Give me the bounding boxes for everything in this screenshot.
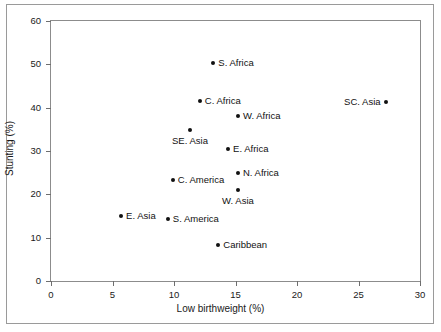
- data-point[interactable]: [188, 128, 192, 132]
- data-point-label: W. Asia: [222, 196, 254, 206]
- data-point[interactable]: [236, 114, 240, 118]
- data-point-label: SE. Asia: [172, 136, 208, 146]
- data-point-label: Caribbean: [223, 241, 267, 251]
- y-axis-tick: [46, 238, 51, 239]
- data-point[interactable]: [119, 214, 123, 218]
- x-axis-tick-label: 15: [230, 290, 241, 300]
- x-axis-tick-label: 0: [48, 290, 53, 300]
- data-point-label: W. Africa: [243, 112, 280, 122]
- data-point-label: C. America: [178, 175, 224, 185]
- data-point-label: N. Africa: [243, 168, 279, 178]
- data-point-label: SC. Asia: [344, 98, 380, 108]
- data-point-label: E. Africa: [233, 145, 268, 155]
- data-point[interactable]: [171, 178, 175, 182]
- data-point-label: S. Africa: [218, 58, 253, 68]
- data-point[interactable]: [384, 100, 388, 104]
- x-axis-tick: [297, 281, 298, 286]
- data-point[interactable]: [236, 171, 240, 175]
- data-point-label: S. America: [173, 215, 219, 225]
- y-axis-tick: [46, 194, 51, 195]
- y-axis-title: Stunting (%): [4, 79, 15, 219]
- data-point[interactable]: [166, 217, 170, 221]
- x-axis-tick-label: 10: [169, 290, 180, 300]
- data-point-label: E. Asia: [126, 212, 156, 222]
- x-axis-tick: [359, 281, 360, 286]
- x-axis-tick-label: 30: [415, 290, 426, 300]
- y-axis-tick: [46, 64, 51, 65]
- x-axis-tick: [420, 281, 421, 286]
- plot-area: 0102030405060051015202530S. AfricaC. Afr…: [50, 20, 421, 282]
- x-axis-tick-label: 20: [292, 290, 303, 300]
- data-point[interactable]: [198, 99, 202, 103]
- data-point[interactable]: [236, 188, 240, 192]
- y-axis-tick-label: 0: [7, 276, 41, 286]
- data-point[interactable]: [216, 243, 220, 247]
- x-axis-tick: [174, 281, 175, 286]
- x-axis-tick: [113, 281, 114, 286]
- y-axis-tick: [46, 151, 51, 152]
- data-point[interactable]: [226, 147, 230, 151]
- data-point-label: C. Africa: [205, 96, 241, 106]
- data-point[interactable]: [211, 61, 215, 65]
- x-axis-tick: [236, 281, 237, 286]
- y-axis-tick: [46, 21, 51, 22]
- y-axis-tick: [46, 108, 51, 109]
- x-axis-title: Low birthweight (%): [0, 303, 441, 314]
- y-axis-tick-label: 60: [7, 16, 41, 26]
- x-axis-tick-label: 5: [110, 290, 115, 300]
- y-axis-tick-label: 50: [7, 60, 41, 70]
- x-axis-tick-label: 25: [353, 290, 364, 300]
- y-axis-tick-label: 10: [7, 233, 41, 243]
- x-axis-tick: [51, 281, 52, 286]
- scatter-plot-figure: 0102030405060051015202530S. AfricaC. Afr…: [0, 0, 441, 332]
